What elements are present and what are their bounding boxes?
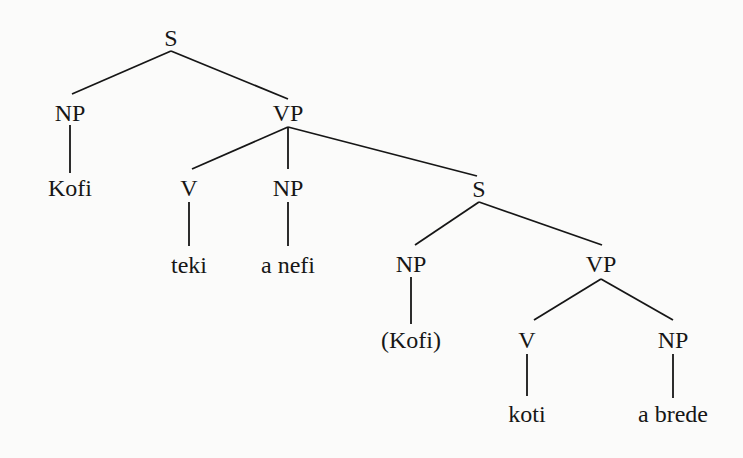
tree-node-np2: NP <box>273 176 304 200</box>
tree-node-vp1: VP <box>273 101 304 125</box>
tree-branch <box>534 279 601 320</box>
tree-branch <box>479 202 602 245</box>
tree-node-vp2: VP <box>586 252 617 276</box>
tree-node-kofi1: Kofi <box>48 176 92 200</box>
tree-branch <box>601 279 673 320</box>
tree-branch <box>171 51 288 99</box>
tree-node-koti: koti <box>508 402 545 426</box>
tree-node-teki: teki <box>171 253 207 277</box>
tree-node-s1: S <box>164 26 177 50</box>
tree-node-kofi2: (Kofi) <box>381 328 441 352</box>
tree-edges <box>0 0 743 458</box>
tree-node-v1: V <box>180 176 197 200</box>
tree-node-anefi: a nefi <box>261 253 315 277</box>
tree-branch <box>288 127 477 176</box>
tree-node-abrede: a brede <box>638 402 708 426</box>
tree-branch <box>192 127 288 169</box>
tree-branch <box>72 51 171 94</box>
tree-branch <box>415 202 479 245</box>
tree-node-s2: S <box>472 177 485 201</box>
tree-node-np4: NP <box>658 328 689 352</box>
tree-node-v2: V <box>518 328 535 352</box>
tree-node-np3: NP <box>396 252 427 276</box>
tree-node-np1: NP <box>55 101 86 125</box>
